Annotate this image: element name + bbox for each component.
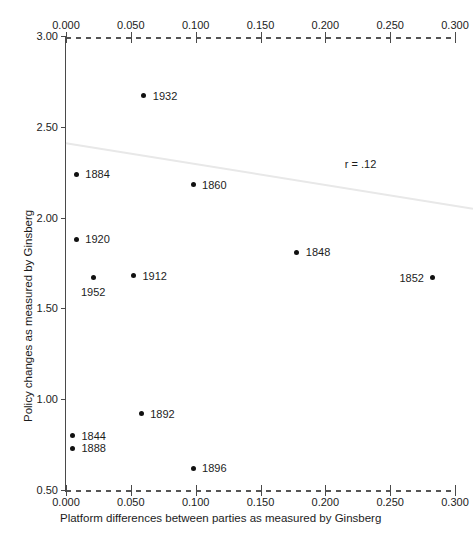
- x-tick-label-0.300: 0.300: [441, 20, 469, 31]
- data-point-label-1932: 1932: [153, 90, 177, 101]
- y-axis-title: Policy changes as measured by Ginsberg: [22, 92, 35, 422]
- x-tick-label-0.250: 0.250: [376, 20, 404, 31]
- data-point-label-1896: 1896: [202, 463, 226, 474]
- data-point-1912: [131, 273, 136, 278]
- data-point-1844: [70, 433, 75, 438]
- y-axis-tick-0.50: [61, 490, 66, 491]
- data-point-label-1860: 1860: [202, 179, 226, 190]
- x-tick-label-0.100: 0.100: [182, 497, 210, 508]
- x-tick-label-0.050: 0.050: [117, 20, 145, 31]
- data-point-1896: [191, 466, 196, 471]
- data-point-label-1884: 1884: [85, 169, 109, 180]
- x-tick-label-0.050: 0.050: [117, 497, 145, 508]
- x-axis-tick-0.250: [390, 32, 391, 43]
- x-tick-label-0.150: 0.150: [247, 497, 275, 508]
- data-point-1852: [430, 275, 435, 280]
- x-tick-label-0.200: 0.200: [312, 497, 340, 508]
- data-point-label-1844: 1844: [81, 430, 105, 441]
- y-axis-spine: [65, 36, 66, 492]
- x-axis-tick-0.300: [455, 32, 456, 43]
- y-axis-tick-2.00: [61, 218, 66, 219]
- y-tick-label-0.50: 0.50: [22, 485, 58, 496]
- y-axis-tick-2.50: [61, 127, 66, 128]
- x-tick-label-0.150: 0.150: [247, 20, 275, 31]
- x-axis-tick-0.100: [196, 32, 197, 43]
- x-axis-top: [66, 36, 455, 39]
- x-axis-title: Platform differences between parties as …: [60, 512, 381, 525]
- x-axis-tick-0.100: [196, 485, 197, 496]
- y-tick-label-3.00: 3.00: [22, 31, 58, 42]
- x-axis-tick-0.300: [455, 485, 456, 496]
- x-axis-tick-0.000: [66, 485, 67, 496]
- x-tick-label-0.000: 0.000: [52, 497, 80, 508]
- x-axis-tick-0.200: [325, 32, 326, 43]
- x-tick-label-0.200: 0.200: [312, 20, 340, 31]
- scatter-plot-figure: 0.0000.0500.1000.1500.2000.2500.300 0.00…: [0, 0, 473, 533]
- x-axis-tick-0.150: [261, 32, 262, 43]
- data-point-label-1952: 1952: [81, 287, 105, 298]
- data-point-1920: [74, 237, 79, 242]
- x-axis-bottom: [66, 489, 455, 492]
- data-point-label-1892: 1892: [150, 408, 174, 419]
- trend-line: [0, 0, 473, 533]
- x-tick-label-0.100: 0.100: [182, 20, 210, 31]
- data-point-label-1852: 1852: [399, 272, 423, 283]
- y-axis-tick-1.50: [61, 308, 66, 309]
- y-axis-tick-3.00: [61, 36, 66, 37]
- x-axis-tick-0.150: [261, 485, 262, 496]
- data-point-1860: [191, 182, 196, 187]
- x-axis-tick-0.050: [131, 485, 132, 496]
- data-point-1932: [141, 93, 146, 98]
- correlation-annotation: r = .12: [345, 159, 377, 170]
- data-point-1884: [74, 172, 79, 177]
- data-point-1892: [139, 411, 144, 416]
- x-axis-tick-0.250: [390, 485, 391, 496]
- x-axis-tick-0.050: [131, 32, 132, 43]
- x-axis-tick-0.000: [66, 32, 67, 43]
- data-point-1848: [294, 250, 299, 255]
- data-point-label-1888: 1888: [81, 443, 105, 454]
- x-tick-label-0.300: 0.300: [441, 497, 469, 508]
- x-tick-label-0.250: 0.250: [376, 497, 404, 508]
- data-point-label-1848: 1848: [306, 247, 330, 258]
- y-axis-tick-1.00: [61, 399, 66, 400]
- data-point-label-1912: 1912: [142, 270, 166, 281]
- data-point-1952: [91, 275, 96, 280]
- data-point-1888: [70, 446, 75, 451]
- x-axis-tick-0.200: [325, 485, 326, 496]
- data-point-label-1920: 1920: [85, 234, 109, 245]
